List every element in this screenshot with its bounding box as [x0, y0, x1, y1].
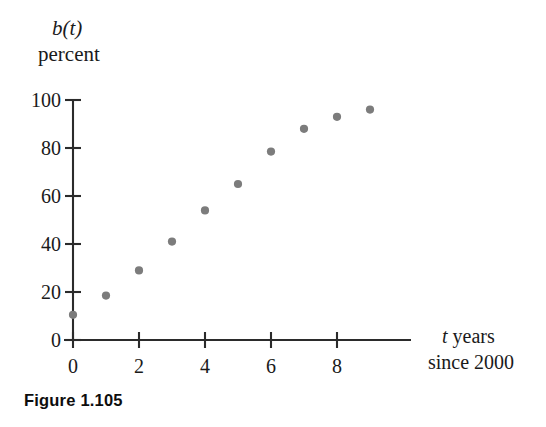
x-axis-tick-label: 2 — [125, 356, 153, 376]
x-axis-tick-label: 6 — [257, 356, 285, 376]
x-axis-tick-label: 0 — [59, 356, 87, 376]
figure-caption: Figure 1.105 — [24, 391, 123, 410]
data-point — [135, 266, 143, 274]
data-point — [69, 311, 77, 319]
data-point — [201, 206, 209, 214]
data-point — [366, 106, 374, 114]
data-point — [267, 148, 275, 156]
data-points-group — [69, 106, 374, 319]
data-point — [168, 238, 176, 246]
x-axis-tick-label: 4 — [191, 356, 219, 376]
data-point — [333, 113, 341, 121]
y-axis-tick-label: 80 — [17, 138, 61, 158]
y-axis-tick-label: 0 — [17, 330, 61, 350]
y-axis-tick-label: 100 — [17, 90, 61, 110]
y-axis-tick-label: 60 — [17, 186, 61, 206]
figure-container: b(t) percent t years since 2000 02040608… — [0, 0, 546, 427]
data-point — [102, 292, 110, 300]
data-point — [234, 180, 242, 188]
y-axis-tick-label: 40 — [17, 234, 61, 254]
y-axis-tick-label: 20 — [17, 282, 61, 302]
x-axis-tick-label: 8 — [323, 356, 351, 376]
axes-group — [64, 100, 411, 340]
data-point — [300, 125, 308, 133]
